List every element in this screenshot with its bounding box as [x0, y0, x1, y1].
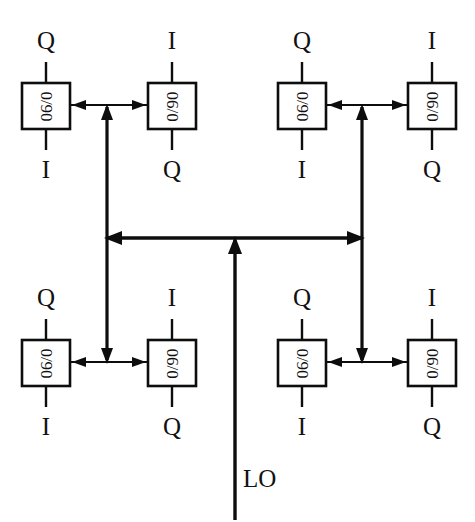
port-label-top-left-bottom-q: Q	[152, 157, 192, 182]
top-left-left-arrowhead	[72, 100, 86, 110]
block-top-left-left-label: 0/90	[38, 83, 55, 131]
right-trunk-up-arrowhead	[356, 104, 368, 120]
diagram-canvas	[0, 0, 475, 522]
port-label-bottom-right-i: I	[412, 285, 452, 310]
block-top-left-right-label: 0/90	[164, 83, 181, 131]
bottom-right-left-arrowhead	[328, 357, 342, 367]
port-label-bottom-left-q: Q	[26, 285, 66, 310]
bottom-left-left-arrowhead	[72, 357, 86, 367]
port-label-bottom-right-bottom-i: I	[282, 414, 322, 439]
port-label-bottom-right-q: Q	[282, 285, 322, 310]
port-label-bottom-left-bottom-q: Q	[152, 414, 192, 439]
block-bottom-left-left-label: 0/90	[38, 340, 55, 388]
port-label-bottom-left-bottom-i: I	[26, 414, 66, 439]
block-bottom-left-right-label: 0/90	[164, 340, 181, 388]
port-label-top-right-q: Q	[282, 28, 322, 53]
port-label-top-left-i: I	[152, 28, 192, 53]
bottom-left-right-arrowhead	[132, 357, 146, 367]
top-left-right-arrowhead	[132, 100, 146, 110]
port-label-bottom-right-bottom-q: Q	[412, 414, 452, 439]
top-right-right-arrowhead	[392, 100, 406, 110]
port-label-top-right-i: I	[412, 28, 452, 53]
port-label-top-right-bottom-i: I	[282, 157, 322, 182]
block-top-right-right-label: 0/90	[424, 83, 441, 131]
port-label-bottom-left-i: I	[152, 285, 192, 310]
port-label-top-left-bottom-i: I	[26, 157, 66, 182]
lo-distribution-diagram: Q I I Q Q I I Q Q I I Q Q I I Q 0/90 0/9…	[0, 0, 475, 522]
top-right-left-arrowhead	[328, 100, 342, 110]
port-label-top-right-bottom-q: Q	[412, 157, 452, 182]
bottom-right-right-arrowhead	[392, 357, 406, 367]
block-bottom-right-left-label: 0/90	[294, 340, 311, 388]
lo-source-label: LO	[243, 466, 276, 491]
block-bottom-right-right-label: 0/90	[424, 340, 441, 388]
left-trunk-up-arrowhead	[101, 104, 113, 120]
port-label-top-left-q: Q	[26, 28, 66, 53]
block-top-right-left-label: 0/90	[294, 83, 311, 131]
